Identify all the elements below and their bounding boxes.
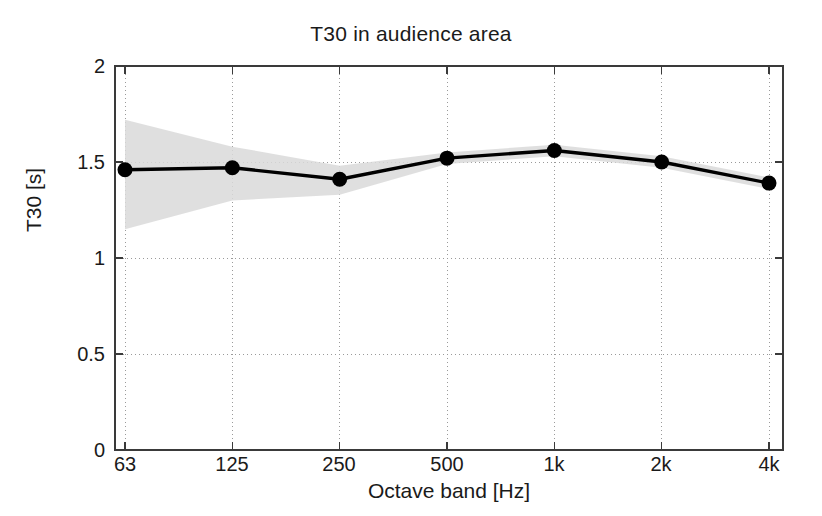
gridlines bbox=[115, 66, 783, 450]
chart-figure: T30 in audience area T30 [s] Octave band… bbox=[0, 0, 822, 516]
plot-area bbox=[0, 0, 822, 516]
